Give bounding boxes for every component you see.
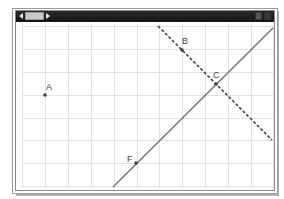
point-a[interactable]: A	[43, 82, 52, 97]
point-marker[interactable]	[214, 82, 218, 86]
geometry-canvas[interactable]: ABCF	[0, 0, 284, 199]
point-label: C	[213, 70, 220, 80]
point-label: A	[46, 82, 52, 92]
point-f[interactable]: F	[127, 154, 138, 165]
point-marker[interactable]	[134, 161, 138, 165]
point-label: F	[127, 154, 133, 164]
points-layer: ABCF	[43, 36, 220, 165]
point-label: B	[182, 36, 188, 46]
point-marker[interactable]	[43, 93, 47, 97]
grid	[22, 23, 274, 188]
point-marker[interactable]	[180, 48, 184, 52]
point-c[interactable]: C	[213, 70, 220, 86]
